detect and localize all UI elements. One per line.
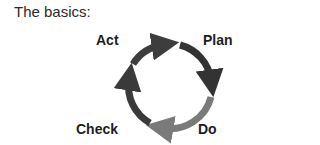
plan-arrow <box>180 45 211 80</box>
stage-label-act: Act <box>96 32 119 48</box>
check-arrow <box>129 80 150 123</box>
stage-label-do: Do <box>198 121 217 137</box>
stage-label-check: Check <box>76 121 118 137</box>
act-arrow <box>133 45 162 64</box>
stage-label-plan: Plan <box>203 32 233 48</box>
